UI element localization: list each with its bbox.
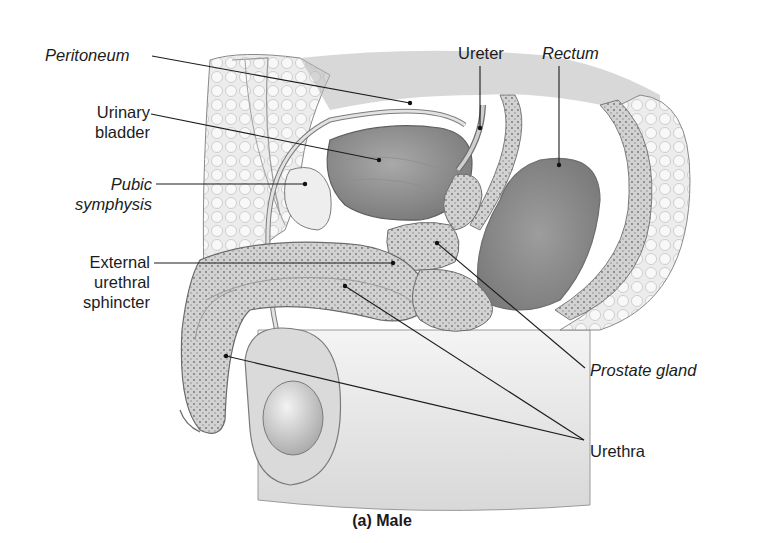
- label-rectum: Rectum: [542, 43, 599, 63]
- label-external-urethral-sphincter-line1: External: [50, 252, 150, 272]
- label-external-urethral-sphincter-line3: sphincter: [50, 292, 150, 312]
- pubic-symphysis-shape: [285, 168, 332, 231]
- label-prostate-gland: Prostate gland: [590, 360, 696, 380]
- label-pubic-symphysis-line1: Pubic: [60, 174, 152, 194]
- testis-shape: [263, 381, 323, 455]
- label-external-urethral-sphincter-line2: urethral: [50, 272, 150, 292]
- figure-caption: (a) Male: [0, 512, 764, 530]
- label-pubic-symphysis: Pubic symphysis: [60, 174, 152, 214]
- label-external-urethral-sphincter: External urethral sphincter: [50, 252, 150, 312]
- label-urethra: Urethra: [590, 441, 645, 461]
- label-pubic-symphysis-line2: symphysis: [60, 194, 152, 214]
- label-urinary-bladder: Urinary bladder: [70, 102, 150, 142]
- scrotum: [245, 328, 341, 485]
- label-urinary-bladder-line2: bladder: [70, 122, 150, 142]
- label-ureter: Ureter: [458, 43, 504, 63]
- label-urinary-bladder-line1: Urinary: [70, 102, 150, 122]
- anatomy-figure: Peritoneum Urinary bladder Pubic symphys…: [0, 0, 764, 543]
- label-peritoneum: Peritoneum: [45, 45, 129, 65]
